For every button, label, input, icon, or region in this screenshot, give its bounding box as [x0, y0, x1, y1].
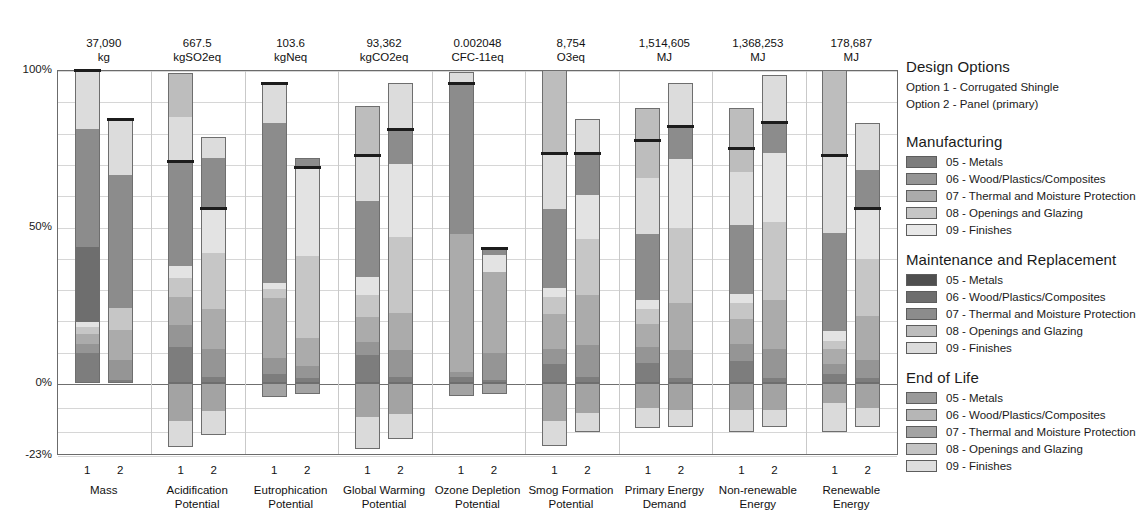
bar-segment-eol-09[interactable] — [575, 413, 600, 432]
bar-segment-mfg-08[interactable] — [388, 237, 413, 312]
bar-segment-eol-09[interactable] — [822, 403, 847, 431]
bar-segment-mnt-07[interactable] — [575, 153, 600, 195]
bar-segment-mfg-09[interactable] — [168, 266, 193, 279]
bar-segment-eol-09[interactable] — [388, 414, 413, 439]
bar-segment-mfg-06[interactable] — [108, 360, 133, 380]
bar-segment-mfg-08[interactable] — [201, 253, 226, 309]
bar-segment-mfg-06[interactable] — [262, 358, 287, 374]
bar-segment-mfg-08[interactable] — [542, 297, 567, 314]
bar-segment-eol-07[interactable] — [729, 383, 754, 410]
bar-segment-mfg-09[interactable] — [575, 195, 600, 239]
bar-segment-mfg-05[interactable] — [822, 374, 847, 383]
bar-segment-mnt-09[interactable] — [855, 123, 880, 170]
bar-segment-mnt-09[interactable] — [388, 83, 413, 130]
bar-segment-mnt-08[interactable] — [729, 108, 754, 172]
bar-segment-mfg-07[interactable] — [108, 330, 133, 360]
bar-segment-mfg-08[interactable] — [108, 308, 133, 330]
bar-segment-mfg-09[interactable] — [668, 159, 693, 228]
bar-segment-eol-07[interactable] — [668, 383, 693, 410]
bar-segment-mfg-09[interactable] — [201, 208, 226, 253]
bar-segment-mfg-09[interactable] — [855, 208, 880, 260]
bar-segment-mnt-08[interactable] — [822, 70, 847, 155]
bar-segment-mnt-07[interactable] — [168, 161, 193, 266]
bar-segment-mnt-09[interactable] — [355, 155, 380, 202]
bar-segment-eol-09[interactable] — [729, 410, 754, 432]
bar-segment-mfg-08[interactable] — [855, 259, 880, 315]
bar-segment-mnt-09[interactable] — [108, 119, 133, 175]
bar-segment-mnt-08[interactable] — [635, 108, 660, 178]
legend-item-mfg-08[interactable]: 08 - Openings and Glazing — [906, 205, 1138, 220]
bar-segment-mfg-06[interactable] — [168, 325, 193, 347]
bar-segment-eol-07[interactable] — [388, 383, 413, 414]
bar-segment-mfg-06[interactable] — [542, 349, 567, 365]
bar-segment-mnt-07[interactable] — [729, 225, 754, 294]
bar-segment-mfg-07[interactable] — [168, 297, 193, 325]
bar-segment-eol-07[interactable] — [482, 383, 507, 394]
bar-segment-mfg-06[interactable] — [201, 349, 226, 377]
bar-segment-eol-09[interactable] — [201, 411, 226, 434]
bar-segment-mfg-08[interactable] — [822, 341, 847, 349]
bar-segment-mfg-05[interactable] — [729, 361, 754, 383]
bar-stack[interactable] — [295, 70, 320, 455]
legend-item-eol-07[interactable]: 07 - Thermal and Moisture Protection — [906, 424, 1138, 439]
bar-segment-mnt-09[interactable] — [762, 75, 787, 122]
legend-item-mnt-09[interactable]: 09 - Finishes — [906, 340, 1138, 355]
bar-segment-eol-09[interactable] — [355, 417, 380, 448]
bar-segment-eol-07[interactable] — [295, 383, 320, 394]
bar-segment-mfg-06[interactable] — [355, 342, 380, 355]
bar-segment-mfg-07[interactable] — [822, 349, 847, 365]
bar-segment-mfg-07[interactable] — [388, 313, 413, 351]
bar-segment-eol-07[interactable] — [822, 383, 847, 403]
bar-stack[interactable] — [449, 70, 474, 455]
bar-segment-mfg-09[interactable] — [355, 277, 380, 296]
bar-segment-mfg-09[interactable] — [729, 294, 754, 303]
bar-segment-mfg-08[interactable] — [668, 228, 693, 303]
bar-segment-mnt-09[interactable] — [75, 70, 100, 129]
bar-segment-mnt-09[interactable] — [575, 119, 600, 153]
bar-segment-eol-09[interactable] — [762, 410, 787, 427]
bar-stack[interactable] — [855, 70, 880, 455]
legend-item-mfg-07[interactable]: 07 - Thermal and Moisture Protection — [906, 188, 1138, 203]
bar-stack[interactable] — [729, 70, 754, 455]
bar-segment-mnt-09[interactable] — [262, 83, 287, 124]
bar-segment-mfg-06[interactable] — [295, 366, 320, 379]
bar-segment-mfg-07[interactable] — [855, 316, 880, 360]
bar-segment-mfg-09[interactable] — [482, 255, 507, 272]
bar-segment-mnt-07[interactable] — [762, 122, 787, 153]
bar-segment-mfg-09[interactable] — [762, 153, 787, 222]
bar-segment-mfg-05[interactable] — [635, 363, 660, 383]
legend-item-mnt-06[interactable]: 06 - Wood/Plastics/Composites — [906, 289, 1138, 304]
bar-stack[interactable] — [822, 70, 847, 455]
bar-segment-mnt-07[interactable] — [262, 123, 287, 283]
bar-segment-mfg-07[interactable] — [295, 338, 320, 366]
bar-segment-eol-07[interactable] — [575, 383, 600, 413]
bar-stack[interactable] — [201, 70, 226, 455]
bar-segment-mfg-07[interactable] — [542, 314, 567, 348]
bar-segment-mnt-07[interactable] — [542, 209, 567, 287]
bar-segment-mnt-09[interactable] — [668, 83, 693, 128]
bar-segment-eol-09[interactable] — [542, 421, 567, 446]
bar-segment-mnt-07[interactable] — [108, 175, 133, 308]
bar-segment-mfg-07[interactable] — [668, 303, 693, 350]
legend-item-mfg-06[interactable]: 06 - Wood/Plastics/Composites — [906, 171, 1138, 186]
bar-segment-mfg-07[interactable] — [75, 334, 100, 343]
bar-segment-mfg-08[interactable] — [355, 295, 380, 317]
bar-segment-eol-07[interactable] — [635, 383, 660, 408]
legend-item-mnt-05[interactable]: 05 - Metals — [906, 272, 1138, 287]
bar-segment-mfg-08[interactable] — [762, 222, 787, 300]
bar-segment-mfg-08[interactable] — [75, 327, 100, 335]
legend-item-mfg-05[interactable]: 05 - Metals — [906, 154, 1138, 169]
bar-segment-mfg-09[interactable] — [635, 300, 660, 309]
bar-stack[interactable] — [388, 70, 413, 455]
bar-segment-mfg-08[interactable] — [295, 256, 320, 337]
bar-segment-mfg-06[interactable] — [388, 350, 413, 377]
bar-segment-mfg-06[interactable] — [668, 350, 693, 378]
bar-segment-mnt-07[interactable] — [388, 129, 413, 163]
bar-segment-mnt-09[interactable] — [729, 172, 754, 225]
legend-item-eol-09[interactable]: 09 - Finishes — [906, 458, 1138, 473]
legend-item-mfg-09[interactable]: 09 - Finishes — [906, 222, 1138, 237]
bar-segment-mnt-07[interactable] — [75, 129, 100, 246]
legend-item-eol-05[interactable]: 05 - Metals — [906, 390, 1138, 405]
bar-segment-mfg-09[interactable] — [262, 283, 287, 289]
legend-item-eol-06[interactable]: 06 - Wood/Plastics/Composites — [906, 407, 1138, 422]
